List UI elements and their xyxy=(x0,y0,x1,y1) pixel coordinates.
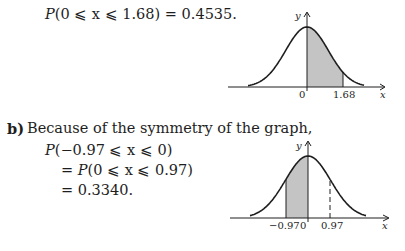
y-axis-label-b: y xyxy=(295,140,302,151)
normal-curve-graph-b: y x −0.97 0 0.97 xyxy=(0,0,405,251)
x-axis-label-b: x xyxy=(382,220,388,231)
tick-label-0-b: 0 xyxy=(300,220,306,231)
tick-label-0-97: 0.97 xyxy=(321,220,343,231)
tick-label-neg-0-97: −0.97 xyxy=(269,220,300,231)
shaded-area-b xyxy=(286,156,308,218)
